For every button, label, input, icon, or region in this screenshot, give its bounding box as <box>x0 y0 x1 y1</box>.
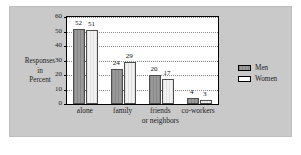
legend-swatch-women-icon <box>238 76 251 82</box>
x-axis-category-0: alone <box>77 106 93 116</box>
bar-value-label: 20 <box>150 65 157 73</box>
bar-value-label: 51 <box>88 20 95 28</box>
x-axis-category-1: family <box>113 106 132 116</box>
bar-men-3 <box>187 98 199 104</box>
x-axis-category-line: family <box>113 106 132 116</box>
x-axis-category-line: friends <box>142 106 179 116</box>
legend-item-men: Men <box>238 63 286 73</box>
y-axis-tick-40: 40 <box>40 41 62 49</box>
y-axis-tick-mark <box>64 90 67 91</box>
y-axis-tick-mark <box>64 17 67 18</box>
bar-men-1 <box>111 69 123 104</box>
legend-item-women: Women <box>238 74 286 84</box>
y-axis-tick-0: 0 <box>40 99 62 107</box>
legend-label-women: Women <box>255 75 277 83</box>
bar-women-1 <box>124 62 136 104</box>
legend-swatch-men-icon <box>238 65 251 71</box>
y-axis-tick-30: 30 <box>40 56 62 64</box>
y-axis-tick-50: 50 <box>40 27 62 35</box>
bar-value-label: 29 <box>126 52 133 60</box>
y-axis-tick-10: 10 <box>40 85 62 93</box>
plot-area <box>66 16 219 105</box>
chart-figure: Responses in Percent Men Women 010203040… <box>9 6 292 137</box>
bar-women-2 <box>162 79 174 104</box>
bar-men-2 <box>149 75 161 104</box>
bar-value-label: 3 <box>203 90 207 98</box>
bar-women-0 <box>86 30 98 104</box>
y-axis-tick-mark <box>64 46 67 47</box>
legend-label-men: Men <box>255 64 268 72</box>
bar-value-label: 24 <box>113 59 120 67</box>
y-axis-tick-60: 60 <box>40 12 62 20</box>
gridline <box>67 17 218 18</box>
y-axis-tick-mark <box>64 75 67 76</box>
x-axis-category-2: friendsor neighbors <box>142 106 179 125</box>
bar-women-3 <box>200 100 212 104</box>
y-axis-tick-mark <box>64 32 67 33</box>
gridline <box>67 104 218 105</box>
bar-value-label: 52 <box>75 19 82 27</box>
plot-inner <box>67 17 218 104</box>
x-axis-category-line: or neighbors <box>142 116 179 126</box>
y-axis-tick-20: 20 <box>40 70 62 78</box>
bar-value-label: 4 <box>190 88 194 96</box>
chart-legend: Men Women <box>238 63 286 85</box>
y-axis-tick-mark <box>64 104 67 105</box>
y-axis-tick-mark <box>64 61 67 62</box>
x-axis-category-3: co-workers <box>182 106 215 116</box>
x-axis-category-line: alone <box>77 106 93 116</box>
x-axis-category-line: co-workers <box>182 106 215 116</box>
bar-men-0 <box>73 29 85 104</box>
bar-value-label: 17 <box>163 69 170 77</box>
